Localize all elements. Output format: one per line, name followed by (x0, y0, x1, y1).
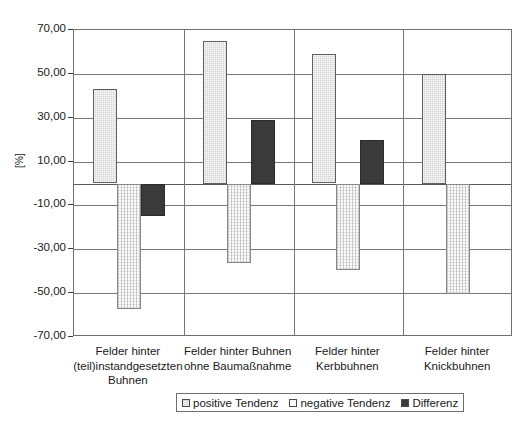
y-axis-tick-label: 50,00 (20, 67, 66, 78)
x-axis-category-label: Felder hinter (teil)instandgesetzten Buh… (73, 344, 183, 388)
legend-item-differenz: Differenz (401, 397, 458, 409)
bar-differenz (251, 120, 275, 184)
x-axis-category-label: Felder hinter Kerbbuhnen (293, 344, 403, 373)
y-axis-tick: -30,00 (8, 242, 66, 253)
category-divider (294, 30, 295, 335)
y-axis-tick: 10,00 (8, 155, 66, 166)
legend-item-positive-tendenz: positive Tendenz (182, 397, 278, 409)
bar-positive-tendenz (422, 74, 446, 184)
bar-positive-tendenz (93, 89, 117, 183)
bar-negative-tendenz (446, 184, 470, 294)
y-axis-tick: -70,00 (8, 330, 66, 341)
y-axis-tick: 50,00 (8, 67, 66, 78)
bar-negative-tendenz (227, 184, 251, 263)
y-axis-tick-label: 30,00 (20, 111, 66, 122)
y-axis-tick-label: -30,00 (20, 242, 66, 253)
legend-label-negative: negative Tendenz (300, 397, 390, 409)
y-axis-tick: 70,00 (8, 23, 66, 34)
legend-label-differenz: Differenz (412, 397, 458, 409)
x-axis-category-label: Felder hinter Buhnen ohne Baumaßnahme (183, 344, 293, 373)
category-divider (403, 30, 404, 335)
plot-area (73, 29, 512, 336)
y-axis-tick-mark (68, 336, 73, 337)
y-axis-tick-label: 10,00 (20, 155, 66, 166)
category-divider (184, 30, 185, 335)
y-axis-tick-label: -50,00 (20, 286, 66, 297)
legend-item-negative-tendenz: negative Tendenz (289, 397, 390, 409)
y-axis-tick: -50,00 (8, 286, 66, 297)
y-axis-tick: 30,00 (8, 111, 66, 122)
y-axis-tick-label: 70,00 (20, 23, 66, 34)
x-axis-category-label: Felder hinter Knickbuhnen (402, 344, 512, 373)
bar-chart: [%] 70,0050,0030,0010,00-10,00-30,00-50,… (0, 0, 523, 432)
y-axis-tick-label: -70,00 (20, 330, 66, 341)
bar-negative-tendenz (117, 184, 141, 309)
legend-swatch-positive-icon (182, 399, 190, 407)
bar-positive-tendenz (203, 41, 227, 184)
chart-legend: positive Tendenz negative Tendenz Differ… (176, 393, 464, 412)
bar-differenz (360, 140, 384, 184)
y-axis-tick-label: -10,00 (20, 198, 66, 209)
y-axis-tick: -10,00 (8, 198, 66, 209)
legend-swatch-differenz-icon (401, 399, 409, 407)
bar-differenz (141, 184, 165, 216)
bar-negative-tendenz (336, 184, 360, 270)
legend-swatch-negative-icon (289, 399, 297, 407)
legend-label-positive: positive Tendenz (193, 397, 278, 409)
bar-positive-tendenz (312, 54, 336, 183)
